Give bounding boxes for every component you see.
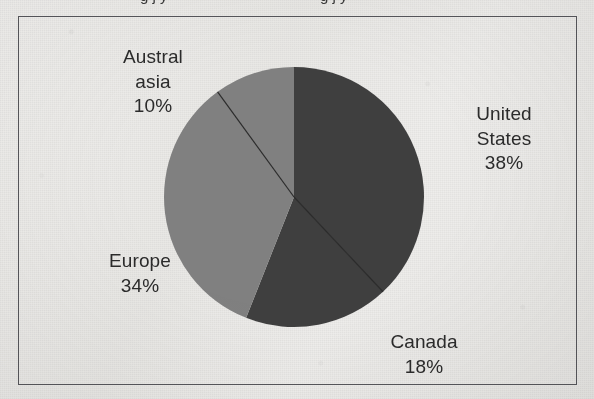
pie-label-united-states-line1: United [439,102,569,127]
cropped-glyph-right: g j y [320,0,348,4]
chart-frame: Austral asia 10% United States 38% Europ… [18,16,577,385]
pie-label-australasia-line1: Austral [93,45,213,70]
pie-label-united-states: United States 38% [439,102,569,176]
plot-area: Austral asia 10% United States 38% Europ… [19,17,576,384]
pie-label-europe: Europe 34% [75,249,205,298]
pie-label-canada: Canada 18% [359,330,489,379]
pie-label-australasia: Austral asia 10% [93,45,213,119]
pie-label-australasia-percent: 10% [93,94,213,119]
pie-label-australasia-line2: asia [93,70,213,95]
cropped-glyph-left: g j y [140,0,168,4]
pie-label-united-states-line2: States [439,127,569,152]
pie-label-canada-line1: Canada [359,330,489,355]
pie-label-canada-percent: 18% [359,355,489,380]
pie-label-europe-line1: Europe [75,249,205,274]
pie-label-united-states-percent: 38% [439,151,569,176]
pie-label-europe-percent: 34% [75,274,205,299]
cropped-caption-above-chart: g j y g j y [0,0,594,8]
